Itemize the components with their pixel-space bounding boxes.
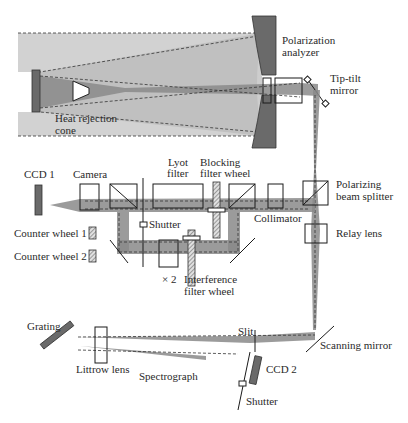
label-polarizing-bs-1: Polarizing	[336, 178, 382, 190]
label-counter-wheel-2: Counter wheel 2	[14, 250, 87, 262]
shutter-bottom-icon	[239, 381, 246, 386]
blocking-wheel-hub	[208, 208, 225, 212]
counter-wheel-2-icon	[89, 250, 96, 262]
label-heat-rejection-2: cone	[55, 124, 76, 136]
label-polarizing-bs-2: beam splitter	[336, 190, 393, 202]
label-grating: Grating	[27, 320, 61, 332]
label-collimator: Collimator	[254, 212, 302, 224]
shutter-top-icon	[140, 222, 147, 227]
primary-mirror	[32, 70, 40, 112]
label-relay-lens: Relay lens	[336, 227, 382, 239]
label-interference-2: filter wheel	[184, 285, 234, 297]
label-spectrograph: Spectrograph	[139, 370, 198, 382]
label-camera: Camera	[73, 168, 107, 180]
spectrograph-beam-upper	[78, 332, 315, 343]
label-shutter-bottom: Shutter	[246, 395, 278, 407]
label-tip-tilt-2: mirror	[330, 84, 358, 96]
label-counter-wheel-1: Counter wheel 1	[14, 227, 87, 239]
label-scanning-mirror: Scanning mirror	[320, 339, 392, 351]
label-polarization-analyzer-2: analyzer	[282, 46, 320, 58]
label-tip-tilt-1: Tip-tilt	[330, 72, 361, 84]
counter-wheel-1-icon	[89, 227, 96, 239]
label-polarization-analyzer-1: Polarization	[282, 34, 336, 46]
label-heat-rejection-1: Heat rejection	[55, 112, 117, 124]
spectrograph-beam-lower	[80, 346, 206, 360]
label-lyot-2: filter	[167, 167, 189, 179]
label-interference-1: Interference	[184, 273, 237, 285]
interference-wheel-hub	[183, 236, 200, 240]
ccd1-sensor	[35, 185, 42, 215]
label-littrow-lens: Littrow lens	[76, 363, 129, 375]
label-slit: Slit	[238, 325, 253, 337]
ccd2-sensor	[249, 356, 262, 385]
label-times-two: × 2	[162, 273, 176, 285]
label-ccd1: CCD 1	[24, 168, 55, 180]
label-ccd2: CCD 2	[266, 363, 297, 375]
label-blocking-2: filter wheel	[200, 167, 250, 179]
optical-diagram: Polarization analyzer Tip-tilt mirror He…	[0, 0, 408, 423]
littrow-lens	[95, 327, 107, 363]
label-shutter-top: Shutter	[149, 218, 181, 230]
